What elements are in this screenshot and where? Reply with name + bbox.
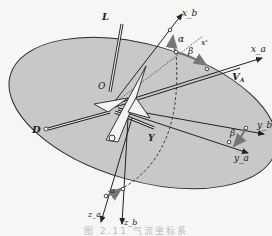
label-lift: L [101, 11, 109, 22]
label-alpha-bottom: α [110, 186, 116, 195]
label-za: z_a [87, 210, 101, 219]
figure-caption: 图 2.11 气流坐标系 [0, 224, 272, 236]
label-velocity: VA [232, 71, 245, 83]
label-yb: y_b [256, 120, 272, 131]
label-ya: y_a [233, 153, 249, 164]
label-beta-right: β [229, 128, 235, 138]
label-xa: x_a [251, 44, 266, 55]
label-beta-top: β [187, 46, 193, 56]
label-alpha-top: α [178, 34, 184, 44]
coordinate-diagram: x_b x' x_a L D Y VA O α β y_b β y_a α z_… [0, 0, 272, 236]
alpha-arc-top [173, 36, 176, 52]
label-xb: x_b [182, 8, 198, 19]
label-drag: D [31, 124, 41, 135]
label-xprime: x' [201, 38, 208, 47]
label-origin: O [98, 81, 106, 91]
